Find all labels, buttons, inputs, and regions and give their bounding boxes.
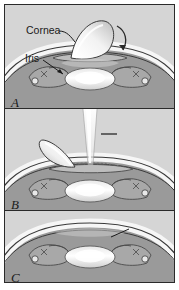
panel-c-illustration [5,211,174,282]
annotation-iris: Iris [25,53,39,64]
lens-highlight [75,184,105,197]
panel-b-illustration [5,109,174,211]
panel-letter-c: C [11,271,20,282]
panel-c: Cornea C [5,211,174,282]
lens-highlight [75,250,105,263]
lens-highlight [75,72,105,85]
cornea-leader-a [59,31,75,42]
panel-letter-a: A [11,96,19,109]
annotation-cornea-a: Cornea [26,25,60,36]
panel-b: Laser beam B [5,109,174,211]
panel-letter-b: B [11,198,19,211]
panel-a: Cornea Iris A [5,5,174,109]
lasik-figure: Cornea Iris A [4,4,175,283]
